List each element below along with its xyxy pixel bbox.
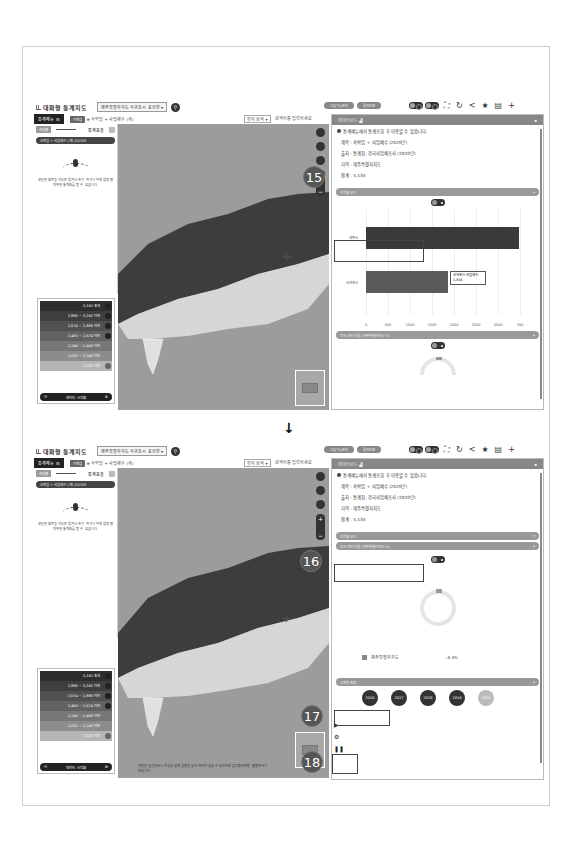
year-button[interactable]: 2018 (420, 690, 436, 706)
toggle-1[interactable] (409, 102, 423, 109)
industry-chip[interactable]: 산업별 (36, 470, 51, 477)
left-panel-title[interactable]: 숙박업 + 사업체수 (개) 2020년 (36, 481, 115, 488)
legend-row[interactable]: 2,032 ~ 2,246 이하 (40, 721, 112, 731)
map-canvas[interactable]: ✛ +− 정밀한 공간서비스 특성상 실제 검증된 값과 차이가 있을 수 있으… (118, 468, 329, 778)
zoom-out-icon[interactable]: − (318, 188, 323, 195)
location-search-input[interactable]: 검색어를 입력하세요 (275, 115, 312, 123)
collapse-icon[interactable]: ▴ (533, 333, 535, 337)
legend-toggle-icon[interactable] (105, 703, 111, 709)
toggle-1[interactable] (409, 446, 423, 453)
legend-footer[interactable]: ☷데이터 시각화⚙ (40, 393, 112, 401)
region-select[interactable]: 제주특별자치도 서귀포시 표선면 ▾ (97, 446, 167, 456)
location-search-type[interactable]: 위치 검색 ▾ (244, 115, 271, 123)
document-icon[interactable]: ▤ (495, 445, 503, 455)
legend-row[interactable]: 2,886 ~ 3,192 이하 (40, 681, 112, 691)
fullscreen-icon[interactable]: ⛶ (444, 445, 450, 455)
legend-row[interactable]: 3,192 초과 (40, 301, 112, 311)
refresh-icon[interactable]: ↻ (456, 101, 463, 111)
section-region[interactable]: 지역별 보기▴ (336, 188, 539, 196)
legend-toggle-icon[interactable] (105, 733, 111, 739)
year-button[interactable]: 2020 (478, 690, 494, 706)
fullscreen-icon[interactable]: ⛶ (444, 101, 450, 111)
legend-toggle-icon[interactable] (105, 313, 111, 319)
legend-row[interactable]: 2,674 ~ 2,886 이하 (40, 321, 112, 331)
tag-chip[interactable]: 가렌업 (70, 116, 85, 123)
star-icon[interactable]: ★ (481, 101, 488, 111)
advanced-settings-button[interactable]: 고급기능조정 (324, 446, 354, 453)
section-region[interactable]: 지역별 보기▾ (336, 532, 539, 540)
location-pin-icon[interactable] (316, 128, 325, 137)
legend-row[interactable]: 2,460 ~ 2,674 이하 (40, 701, 112, 711)
legend-settings-icon[interactable]: ⚙ (105, 765, 108, 769)
expand-icon[interactable] (109, 127, 115, 133)
refresh-icon[interactable]: ↻ (456, 445, 463, 455)
minimap[interactable] (295, 370, 325, 406)
scrollbar[interactable] (540, 473, 542, 763)
legend-toggle-icon[interactable] (105, 683, 111, 689)
collapse-icon[interactable]: ▴ (533, 544, 535, 548)
legend-toggle-icon[interactable] (105, 303, 111, 309)
legend-toggle-icon[interactable] (105, 693, 111, 699)
location-pin-icon[interactable] (316, 472, 325, 481)
search-icon[interactable]: ⚲ (171, 447, 180, 456)
star-icon[interactable]: ★ (481, 445, 488, 455)
toggle-2[interactable] (425, 446, 439, 453)
plus-icon[interactable]: + (508, 101, 515, 111)
chart-type-toggle[interactable] (431, 199, 445, 206)
stat-menu-button[interactable]: 통계메뉴 ☷ (34, 114, 64, 124)
bar-seogwipo-city[interactable] (366, 271, 448, 293)
settings-icon[interactable]: ⚙ (334, 733, 344, 740)
location-search-type[interactable]: 위치 검색 ▾ (244, 459, 271, 467)
settings-icon[interactable] (316, 486, 325, 495)
zoom-out-icon[interactable]: − (318, 532, 323, 539)
stat-index-button[interactable]: 통계지표 (357, 102, 381, 109)
industry-chip[interactable]: 산업별 (36, 126, 51, 133)
legend-row[interactable]: 2,246 ~ 2,460 이하 (40, 341, 112, 351)
legend-row[interactable]: 2,032 이하 (40, 731, 112, 741)
close-icon[interactable]: ▪ (534, 462, 537, 467)
ratio-chart-toggle[interactable] (431, 556, 445, 563)
advanced-settings-button[interactable]: 고급기능조정 (324, 102, 354, 109)
location-search-input[interactable]: 검색어를 입력하세요 (275, 459, 312, 467)
tag-chip[interactable]: 가렌업 (70, 460, 85, 467)
legend-toggle-icon[interactable] (105, 323, 111, 329)
year-button[interactable]: 2016 (362, 690, 378, 706)
stat-index-button[interactable]: 통계지표 (357, 446, 381, 453)
legend-row[interactable]: 2,032 이하 (40, 361, 112, 371)
section-ratio[interactable]: 전국 대비 비율 (제주특별자치도 %)▴ (336, 331, 539, 339)
legend-toggle-icon[interactable] (105, 673, 111, 679)
search-icon[interactable]: ⚲ (171, 103, 180, 112)
document-icon[interactable]: ▤ (495, 101, 503, 111)
toggle-2[interactable] (425, 102, 439, 109)
share-icon[interactable]: < (469, 101, 476, 111)
region-select[interactable]: 제주특별자치도 서귀포시 표선면 ▾ (97, 102, 167, 112)
legend-row[interactable]: 2,886 ~ 3,192 이하 (40, 311, 112, 321)
year-button[interactable]: 2017 (391, 690, 407, 706)
pause-icon[interactable]: ❚❚ (334, 745, 344, 752)
legend-footer[interactable]: ☷데이터 시각화⚙ (40, 763, 112, 771)
map-canvas[interactable]: ✛ +− (118, 124, 329, 410)
legend-settings-icon[interactable]: ⚙ (105, 395, 108, 399)
plus-icon[interactable]: + (508, 445, 515, 455)
stat-menu-button[interactable]: 통계메뉴 ☷ (34, 458, 64, 468)
close-icon[interactable]: ▪ (534, 118, 537, 123)
left-panel-title[interactable]: 숙박업 + 사업체수 (개) 2020년 (36, 137, 115, 144)
ratio-donut[interactable] (420, 590, 456, 626)
person-icon[interactable] (316, 156, 325, 165)
legend-row[interactable]: 2,246 ~ 2,460 이하 (40, 711, 112, 721)
legend-row[interactable]: 2,460 ~ 2,674 이하 (40, 331, 112, 341)
zoom-control[interactable]: +− (316, 514, 325, 540)
collapse-icon[interactable]: ▴ (533, 190, 535, 194)
scrollbar[interactable] (540, 129, 542, 399)
zoom-in-icon[interactable]: + (318, 515, 323, 522)
expand-icon[interactable]: ▾ (533, 534, 535, 538)
expand-icon[interactable] (109, 471, 115, 477)
section-ratio[interactable]: 전국 대비 비율 (제주특별자치도 %)▴ (336, 542, 539, 550)
legend-toggle-icon[interactable] (105, 333, 111, 339)
share-icon[interactable]: < (469, 445, 476, 455)
legend-row[interactable]: 2,674 ~ 2,886 이하 (40, 691, 112, 701)
person-icon[interactable] (316, 500, 325, 509)
minimap-viewport[interactable] (302, 383, 318, 393)
year-button[interactable]: 2019 (449, 690, 465, 706)
ratio-chart-toggle[interactable] (431, 342, 445, 349)
